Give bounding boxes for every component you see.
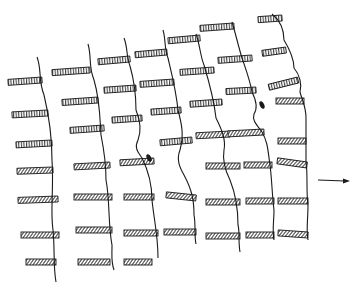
hatched-layer bbox=[206, 233, 240, 239]
diagram-canvas bbox=[0, 0, 357, 288]
hatched-layer bbox=[17, 167, 53, 174]
hatched-layer bbox=[168, 35, 200, 44]
column-1 bbox=[8, 57, 59, 282]
hatched-layer bbox=[200, 23, 234, 31]
filled-marker bbox=[258, 100, 265, 109]
hatched-layer bbox=[26, 259, 56, 265]
hatched-layer bbox=[206, 163, 240, 169]
hatched-layer bbox=[151, 107, 181, 115]
hatched-layer bbox=[262, 47, 287, 56]
hatched-layer bbox=[76, 227, 112, 233]
hatched-layer bbox=[16, 140, 52, 148]
hatched-layer bbox=[52, 67, 90, 76]
hatched-layer bbox=[124, 194, 154, 200]
boundary-line bbox=[88, 44, 114, 270]
hatched-layer bbox=[160, 137, 192, 146]
hatched-layer bbox=[196, 131, 230, 139]
hatched-layer bbox=[244, 162, 272, 168]
boundary-line bbox=[196, 34, 240, 252]
hatched-layer bbox=[228, 129, 264, 137]
hatched-layer bbox=[278, 230, 308, 238]
hatched-layer bbox=[206, 199, 240, 205]
hatched-layer bbox=[124, 259, 152, 265]
hatched-layer bbox=[8, 77, 42, 85]
hatched-layer bbox=[78, 259, 110, 265]
column-2 bbox=[52, 44, 114, 270]
hatched-layer bbox=[12, 110, 48, 118]
hatched-layer bbox=[135, 49, 167, 58]
hatched-layer bbox=[268, 77, 299, 90]
hatched-layer bbox=[74, 194, 112, 200]
hatched-layer bbox=[278, 138, 306, 144]
hatched-layer bbox=[70, 125, 104, 133]
deformation-columns bbox=[8, 14, 308, 282]
hatched-layer bbox=[246, 198, 274, 204]
hatched-layer bbox=[276, 98, 304, 104]
diagram-figure bbox=[0, 0, 357, 288]
column-4 bbox=[135, 30, 196, 244]
hatched-layer bbox=[98, 56, 130, 65]
hatched-layer bbox=[104, 85, 136, 93]
column-7 bbox=[258, 14, 308, 240]
hatched-layer bbox=[190, 99, 222, 107]
hatched-layer bbox=[246, 232, 274, 238]
hatched-layer bbox=[180, 67, 214, 75]
hatched-layer bbox=[278, 198, 308, 204]
hatched-layer bbox=[62, 97, 98, 105]
hatched-layer bbox=[277, 158, 308, 168]
hatched-layer bbox=[124, 230, 158, 236]
hatched-layer bbox=[218, 55, 252, 63]
hatched-layer bbox=[164, 229, 196, 235]
boundary-line bbox=[124, 38, 158, 258]
direction-arrow-icon bbox=[318, 179, 350, 184]
hatched-layer bbox=[140, 79, 174, 87]
